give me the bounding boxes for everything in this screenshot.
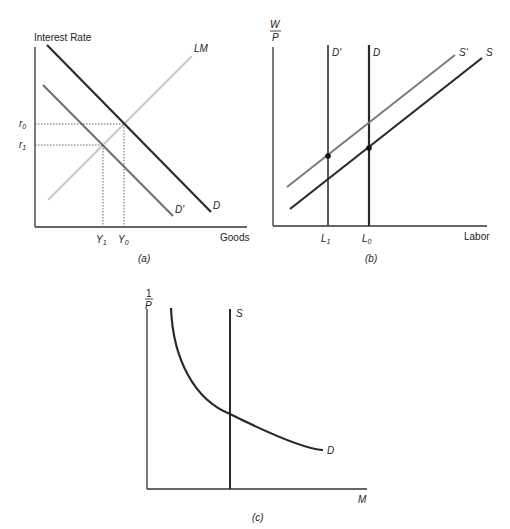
panel-c-d-curve: [171, 308, 323, 450]
panel-c-y-label-numerator: 1: [146, 288, 152, 299]
panel-a-x-axis-label: Goods: [220, 232, 249, 243]
panel-a-d-label: D: [213, 200, 220, 211]
panel-a-lm-label: LM: [194, 43, 209, 54]
panel-b-s-label: S: [486, 47, 493, 58]
panel-b-l1-label: L1: [321, 233, 331, 245]
panel-a-r1-label: r1: [19, 139, 26, 151]
panel-b-equilibrium-new: [325, 153, 331, 159]
panel-c-y-label-denominator: P: [145, 300, 152, 311]
panel-b-y-label-denominator: P: [272, 32, 279, 43]
panel-a-caption: (a): [138, 253, 150, 264]
panel-a-y1-label: Y1: [96, 234, 107, 246]
panel-c: 1 P S D M (c): [145, 288, 367, 523]
panel-a-d-prime-label: D': [175, 204, 185, 215]
panel-a-d-prime-curve: [43, 85, 173, 216]
panel-b-y-label-numerator: W: [270, 19, 281, 30]
panel-b-equilibrium-original: [366, 145, 372, 151]
figure-canvas: Interest Rate LM D' D r0 r1 Y1 Y0 Goods …: [0, 0, 510, 529]
panel-b-d-label: D: [373, 47, 380, 58]
panel-b-l0-label: L0: [362, 233, 372, 245]
panel-a-d-curve: [47, 45, 211, 212]
panel-b-x-axis-label: Labor: [464, 231, 490, 242]
panel-b-s-prime-label: S': [459, 47, 469, 58]
panel-a-y-axis-label: Interest Rate: [34, 32, 92, 43]
panel-a: Interest Rate LM D' D r0 r1 Y1 Y0 Goods …: [19, 32, 249, 264]
panel-c-x-axis-label: M: [358, 494, 367, 505]
panel-c-s-label: S: [236, 308, 243, 319]
panel-a-lm-curve: [48, 56, 192, 200]
panel-b-d-prime-label: D': [332, 47, 342, 58]
panel-c-d-label: D: [327, 445, 334, 456]
panel-b: W P D' D S' S L1 L0 Labor (b): [270, 19, 493, 264]
panel-a-r0-label: r0: [19, 118, 26, 130]
panel-c-caption: (c): [252, 512, 264, 523]
panel-b-caption: (b): [365, 253, 377, 264]
panel-b-s-curve: [290, 58, 482, 209]
panel-a-y0-label: Y0: [118, 234, 129, 246]
panel-b-s-prime-curve: [287, 55, 455, 187]
